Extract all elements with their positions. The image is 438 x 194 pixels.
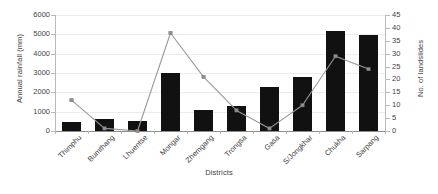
x-axis-tick-mark [121,131,122,134]
x-axis-category-labels: ThimphuBumthangLhuentseMongarZhemgangTro… [55,133,385,191]
y-axis-left-tick-label: 0 [10,127,50,135]
x-axis-tick-mark [187,131,188,134]
y-axis-left-tick-label: 3000 [10,69,50,77]
x-axis-tick-mark [319,131,320,134]
y-axis-right-tick-label: 10 [392,101,422,109]
y-axis-right-tick-label: 35 [392,37,422,45]
y-axis-right-tick-mark [386,79,390,80]
x-axis-tick-mark [385,131,386,134]
x-axis-category-text: Mongar [158,133,182,157]
rainfall-landslides-chart: Annual rainfall (mm) No. of landslides D… [0,0,438,194]
y-axis-right-tick-label: 0 [392,127,422,135]
x-axis-tick-mark [88,131,89,134]
x-axis-tick-mark [253,131,254,134]
x-axis-category-text: Lhuentse [121,133,149,161]
x-axis-category-text: Thimphu [56,133,83,160]
x-axis-tick-mark [55,131,56,134]
y-axis-right-tick-mark [386,105,390,106]
y-axis-right-tick-mark [386,41,390,42]
data-point-marker [301,104,304,107]
data-point-marker [70,98,73,101]
y-axis-right-ticks: 051015202530354045 [392,0,424,194]
data-point-marker [103,127,106,130]
y-axis-right-tick-label: 45 [392,11,422,19]
y-axis-right-tick-mark [386,67,390,68]
x-axis-tick-mark [154,131,155,134]
data-point-marker [334,55,337,58]
y-axis-left-tick-label: 1000 [10,108,50,116]
data-point-marker [268,127,271,130]
y-axis-right-tick-label: 25 [392,63,422,71]
x-axis-category-text: Sarpang [353,133,379,159]
y-axis-left-ticks: 0100020003000400050006000 [8,0,50,194]
y-axis-left-tick-label: 5000 [10,30,50,38]
data-point-marker [169,31,172,34]
y-axis-right-tick-mark [386,15,390,16]
x-axis-category-text: Bumthang [85,133,116,164]
x-axis-category-text: Trongsa [222,133,248,159]
x-axis-tick-mark [286,131,287,134]
x-axis-category-text: Gasa [262,133,281,152]
data-point-marker [367,67,370,70]
y-axis-left-tick-label: 4000 [10,50,50,58]
data-point-marker [202,75,205,78]
y-axis-left-tick-label: 6000 [10,11,50,19]
y-axis-right-tick-label: 40 [392,24,422,32]
x-axis-category-text: Zhemgang [183,133,215,165]
y-axis-right-tick-label: 20 [392,75,422,83]
y-axis-right-tick-mark [386,54,390,55]
y-axis-left-tick-label: 2000 [10,88,50,96]
x-axis-tick-mark [220,131,221,134]
y-axis-right-tick-label: 15 [392,88,422,96]
y-axis-right-tick-label: 30 [392,50,422,58]
y-axis-right-line [385,15,386,132]
x-axis-category-text: S/Jongkhar [281,133,314,166]
y-axis-right-tick-mark [386,28,390,29]
y-axis-right-tick-mark [386,92,390,93]
x-axis-tick-mark [352,131,353,134]
x-axis-category-text: Chukha [322,133,347,158]
